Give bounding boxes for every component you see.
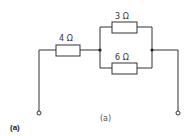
right-terminal-icon	[176, 111, 180, 115]
resistor-6ohm	[112, 63, 137, 74]
diagram-caption: (a)	[100, 114, 111, 123]
r3-label: 6 Ω	[115, 53, 129, 62]
circuit-svg: 4 Ω 3 Ω 6 Ω (a) (a)	[0, 0, 191, 136]
right-junction-dot	[150, 48, 153, 51]
circuit-diagram: 4 Ω 3 Ω 6 Ω (a) (a)	[0, 0, 191, 136]
resistor-3ohm	[112, 22, 137, 33]
r1-label: 4 Ω	[59, 34, 73, 43]
left-terminal-icon	[37, 111, 41, 115]
figure-label: (a)	[10, 123, 20, 132]
r2-label: 3 Ω	[115, 12, 129, 21]
left-junction-dot	[98, 48, 101, 51]
resistor-4ohm	[56, 45, 80, 56]
